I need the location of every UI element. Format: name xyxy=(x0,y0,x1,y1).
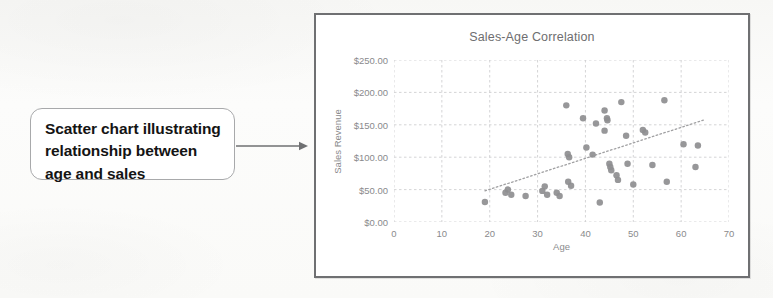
scatter-point xyxy=(664,179,670,185)
scatter-point xyxy=(695,142,701,148)
scatter-point xyxy=(649,162,655,168)
arrow-right-icon xyxy=(236,141,308,151)
scatter-point xyxy=(608,167,614,173)
x-axis-tick-label: 20 xyxy=(484,228,495,239)
y-axis-tick-label: $50.00 xyxy=(359,184,388,195)
x-axis-tick-label: 40 xyxy=(580,228,591,239)
scatter-plot-svg xyxy=(394,60,729,222)
scatter-point xyxy=(618,99,624,105)
scatter-point xyxy=(692,164,698,170)
scatter-point xyxy=(583,144,589,150)
scatter-point xyxy=(680,141,686,147)
x-axis-tick-label: 50 xyxy=(628,228,639,239)
y-axis-tick-label: $100.00 xyxy=(354,152,388,163)
chart-container: Sales-Age Correlation Sales Revenue $0.0… xyxy=(314,13,750,278)
scatter-point xyxy=(566,154,572,160)
y-axis-title-label: Sales Revenue xyxy=(332,109,343,173)
y-axis-tick-label: $0.00 xyxy=(364,217,388,228)
y-axis-tick-label: $200.00 xyxy=(354,87,388,98)
x-axis-tick-label: 70 xyxy=(724,228,735,239)
scatter-point xyxy=(593,120,599,126)
x-axis-title: Age xyxy=(394,241,729,252)
scatter-point xyxy=(556,193,562,199)
scatter-point xyxy=(568,182,574,188)
y-axis-title: Sales Revenue xyxy=(330,60,344,222)
scatter-point xyxy=(642,129,648,135)
scatter-point xyxy=(615,177,621,183)
scatter-point xyxy=(630,181,636,187)
x-axis-tick-label: 30 xyxy=(532,228,543,239)
scatter-point xyxy=(563,102,569,108)
annotation-callout: Scatter chart illustrating relationship … xyxy=(30,108,235,180)
scatter-point xyxy=(624,160,630,166)
annotation-callout-text: Scatter chart illustrating relationship … xyxy=(45,118,222,185)
y-axis-tick-label: $150.00 xyxy=(354,119,388,130)
scatter-point xyxy=(597,199,603,205)
x-axis-tick-label: 60 xyxy=(676,228,687,239)
scatter-point xyxy=(482,199,488,205)
scatter-point xyxy=(661,97,667,103)
scatter-point xyxy=(601,107,607,113)
chart-title: Sales-Age Correlation xyxy=(316,30,748,44)
scatter-point xyxy=(544,192,550,198)
scatter-point xyxy=(589,151,595,157)
y-axis-tick-label: $250.00 xyxy=(354,55,388,66)
scatter-point xyxy=(508,192,514,198)
scatter-point xyxy=(580,115,586,121)
x-axis-tick-label: 0 xyxy=(391,228,396,239)
scatter-point xyxy=(542,183,548,189)
scatter-point xyxy=(522,193,528,199)
scatter-point xyxy=(601,127,607,133)
plot-area: $0.00$50.00$100.00$150.00$200.00$250.000… xyxy=(394,60,729,222)
x-axis-tick-label: 10 xyxy=(437,228,448,239)
scatter-point xyxy=(604,117,610,123)
scatter-point xyxy=(623,133,629,139)
